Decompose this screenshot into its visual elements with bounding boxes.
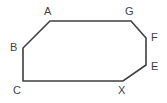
vertex-label-e: E bbox=[151, 61, 158, 72]
vertex-label-f: F bbox=[151, 32, 158, 43]
polygon-outline bbox=[23, 21, 146, 81]
vertex-label-a: A bbox=[44, 6, 51, 17]
polygon-svg bbox=[0, 0, 167, 103]
vertex-label-g: G bbox=[125, 6, 134, 17]
vertex-label-x: X bbox=[118, 85, 125, 96]
geometry-figure: AGFEXCB bbox=[0, 0, 167, 103]
vertex-label-c: C bbox=[13, 85, 21, 96]
vertex-label-b: B bbox=[10, 42, 17, 53]
